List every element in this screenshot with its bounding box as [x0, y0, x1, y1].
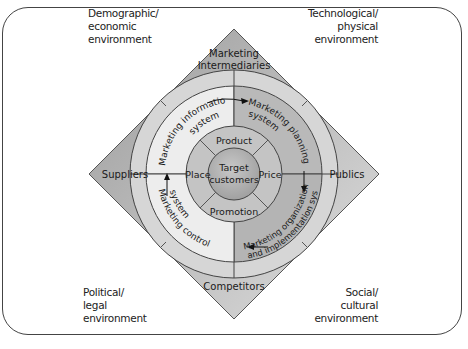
- mix-price: Price: [258, 169, 281, 180]
- marketing-environment-diagram: Marketing Intermediaries Suppliers Publi…: [0, 0, 468, 349]
- actor-top-line2: Intermediaries: [198, 60, 271, 71]
- mix-place: Place: [185, 169, 210, 180]
- actor-competitors: Competitors: [203, 281, 264, 292]
- center-line1: Target: [218, 162, 249, 173]
- mix-promotion: Promotion: [210, 206, 258, 217]
- center-line2: customers: [209, 174, 259, 185]
- actor-top-line1: Marketing: [209, 48, 259, 59]
- actor-publics: Publics: [330, 169, 365, 180]
- actor-suppliers: Suppliers: [102, 169, 148, 180]
- mix-product: Product: [216, 135, 252, 146]
